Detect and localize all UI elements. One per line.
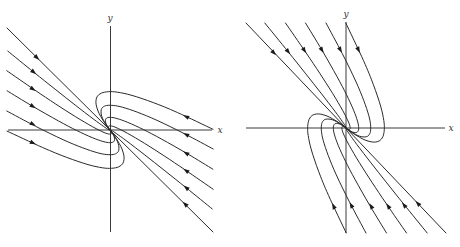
trajectory-from-top-1 — [265, 23, 346, 128]
trajectory-from-bottom-1 — [308, 114, 347, 233]
y-axis-label: y — [106, 13, 113, 23]
arrowhead-icon — [355, 46, 362, 53]
arrowhead-icon — [330, 202, 337, 209]
trajectory-from-bottom-3 — [333, 123, 386, 233]
figure-canvas: x y x y — [0, 0, 460, 247]
left-phase-portrait: x y — [7, 13, 223, 232]
x-axis-label: x — [448, 123, 453, 133]
arrowhead-icon — [337, 46, 344, 54]
trajectory-from-bottom-5 — [346, 128, 427, 233]
arrowhead-icon — [29, 140, 36, 147]
arrowhead-icon — [182, 113, 189, 120]
trajectory-from-right-3 — [105, 117, 213, 169]
trajectory-from-left-3 — [7, 91, 115, 143]
trajectory-from-right-5 — [110, 130, 212, 209]
arrowhead-icon — [182, 131, 190, 138]
trajectory-from-top-5 — [346, 23, 385, 142]
trajectory-from-left-5 — [7, 130, 124, 168]
arrowhead-icon — [29, 103, 37, 110]
arrowhead-icon — [182, 150, 190, 157]
trajectory-from-top-3 — [306, 23, 359, 133]
x-axis-label: x — [217, 125, 222, 135]
trajectory-from-left-1 — [8, 51, 110, 130]
arrowhead-icon — [301, 47, 308, 55]
arrowhead-icon — [319, 46, 326, 54]
trajectory-from-right-1 — [96, 92, 213, 130]
arrowhead-icon — [182, 167, 190, 174]
right-phase-portrait: x y — [246, 9, 454, 233]
y-axis-label: y — [342, 9, 349, 19]
arrowhead-icon — [348, 201, 355, 209]
